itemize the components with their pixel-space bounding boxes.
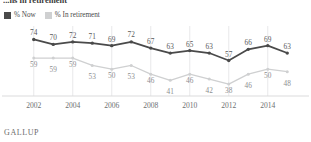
svg-text:46: 46 <box>147 76 155 85</box>
svg-text:67: 67 <box>147 37 155 46</box>
legend-item-now[interactable]: % Now <box>4 11 36 19</box>
x-axis-tick-labels: 2002200420062008201020122014 <box>26 101 275 110</box>
svg-text:69: 69 <box>108 35 116 44</box>
value-labels-retirement: 5959595350534641464238465048 <box>30 60 291 96</box>
svg-text:71: 71 <box>89 32 97 41</box>
svg-text:2008: 2008 <box>143 101 158 110</box>
svg-text:41: 41 <box>167 87 175 96</box>
svg-text:59: 59 <box>30 60 38 69</box>
svg-text:2002: 2002 <box>26 101 41 110</box>
legend-swatch-retirement-icon <box>45 12 52 19</box>
svg-text:53: 53 <box>128 72 136 81</box>
line-chart: 5959595350534641464238465048 74707271697… <box>0 22 311 120</box>
svg-text:63: 63 <box>284 42 292 51</box>
svg-text:57: 57 <box>225 50 233 59</box>
svg-text:42: 42 <box>206 86 214 95</box>
value-labels-now: 7470727169726763656357666963 <box>30 28 291 58</box>
legend-label-now: % Now <box>14 11 36 19</box>
svg-text:74: 74 <box>30 28 38 37</box>
svg-text:50: 50 <box>264 71 272 80</box>
svg-text:63: 63 <box>206 42 214 51</box>
svg-text:59: 59 <box>50 65 58 74</box>
svg-text:65: 65 <box>186 40 194 49</box>
svg-text:2004: 2004 <box>65 101 80 110</box>
legend-swatch-now-icon <box>4 12 11 19</box>
svg-text:2012: 2012 <box>221 101 236 110</box>
svg-text:72: 72 <box>69 31 77 40</box>
legend-label-retirement: % In retirement <box>55 11 100 19</box>
svg-text:50: 50 <box>108 71 116 80</box>
legend-item-retirement[interactable]: % In retirement <box>45 11 100 19</box>
svg-text:38: 38 <box>225 86 233 95</box>
chart-canvas: 5959595350534641464238465048 74707271697… <box>0 22 311 120</box>
svg-text:48: 48 <box>284 79 292 88</box>
svg-text:59: 59 <box>69 60 77 69</box>
svg-text:53: 53 <box>89 72 97 81</box>
chart-legend: % Now % In retirement <box>4 10 100 20</box>
clipped-headline: ...ns in retirement <box>3 0 303 3</box>
svg-text:69: 69 <box>264 35 272 44</box>
svg-text:2006: 2006 <box>104 101 119 110</box>
svg-text:46: 46 <box>186 76 194 85</box>
svg-text:46: 46 <box>245 81 253 90</box>
svg-text:72: 72 <box>128 30 136 39</box>
source-attribution: GALLUP <box>4 128 39 137</box>
svg-text:2014: 2014 <box>260 101 275 110</box>
svg-text:66: 66 <box>245 38 253 47</box>
svg-text:70: 70 <box>50 33 58 42</box>
svg-text:63: 63 <box>167 42 175 51</box>
svg-text:2010: 2010 <box>182 101 197 110</box>
clipped-headline-text: ...ns in retirement <box>3 0 303 3</box>
